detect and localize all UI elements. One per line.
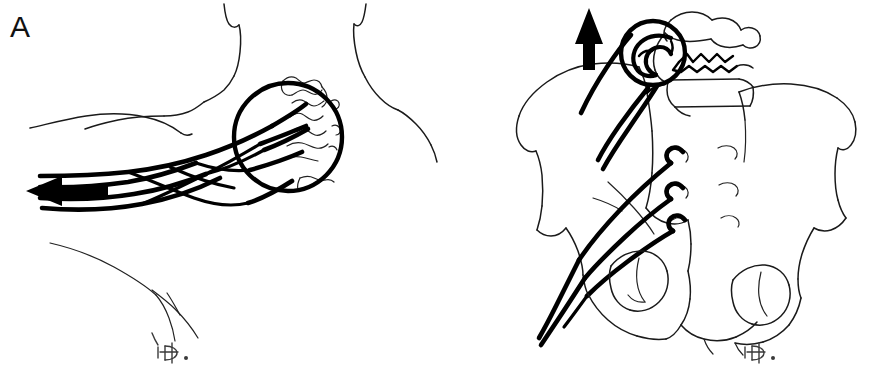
panel-b-drawing — [443, 0, 885, 374]
sacral-wire-bundle — [539, 148, 685, 345]
coiled-wire-detail — [633, 36, 672, 76]
panel-b: B — [443, 0, 885, 374]
figure-root: A — [0, 0, 885, 374]
traction-arrow-up — [575, 8, 603, 70]
lower-contour-lines — [50, 243, 198, 341]
artist-signature — [152, 333, 188, 363]
panel-a-drawing — [0, 0, 443, 374]
magnifier-lens-group — [621, 21, 685, 85]
panel-a: A — [0, 0, 443, 374]
pubic-rami — [588, 271, 801, 355]
artist-signature — [745, 343, 775, 363]
traction-arrow-left — [26, 176, 108, 206]
obturator-foramina — [610, 251, 791, 325]
panel-label-a: A — [10, 12, 30, 42]
lumbar-vertebrae — [647, 12, 760, 116]
